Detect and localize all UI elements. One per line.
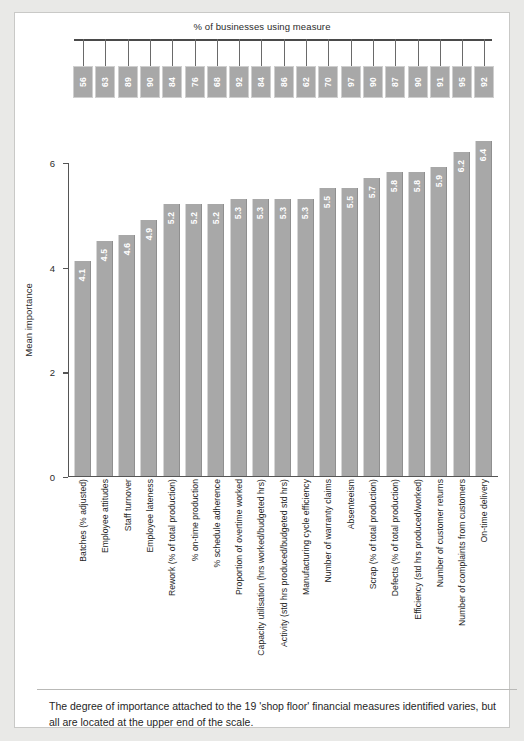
category-label: % schedule adherence [206,479,228,679]
pct-axis-title: % of businesses using measure [15,21,509,32]
bar: 5.3 [252,199,269,476]
bar-value-label: 4.5 [99,248,109,260]
pct-value-box: 62 [296,66,316,98]
bar: 4.6 [118,235,135,476]
bar: 5.2 [185,204,202,476]
pct-value-text: 87 [390,77,400,87]
category-label: Manufacturing cycle efficiency [295,479,317,679]
pct-stem [373,39,374,67]
pct-stem [150,39,151,67]
category-label-text: Rework (% of total production) [167,479,177,596]
pct-stem [484,39,485,67]
bar: 5.7 [363,178,380,476]
y-axis-tick: 2 [63,372,68,373]
bar-value-label: 5.9 [434,175,444,187]
pct-value-text: 68 [212,77,222,87]
category-label: Number of warranty claims [317,479,339,679]
bar: 4.5 [96,241,113,477]
pct-stem [83,39,84,67]
bar: 5.3 [274,199,291,476]
category-label-text: Capacity utilisation (hrs worked/budgete… [256,479,266,656]
y-axis-tick: 0 [63,477,68,478]
y-axis-label: Mean importance [23,283,34,356]
bar-value-label: 4.9 [144,227,154,239]
category-label-text: Absenteeism [346,479,356,529]
bar-value-label: 5.3 [278,206,288,218]
pct-value-text: 86 [279,77,289,87]
pct-stem [172,39,173,67]
pct-value-text: 97 [346,77,356,87]
pct-value-box: 84 [162,66,182,98]
bar: 4.9 [140,220,157,476]
bar-value-label: 5.2 [189,212,199,224]
bar-value-label: 5.5 [345,196,355,208]
pct-stem [217,39,218,67]
category-label-text: On-time delivery [479,479,489,542]
category-label: Efficiency (std hrs produced/worked) [407,479,429,679]
pct-marker: 70 [317,39,339,109]
pct-value-box: 90 [363,66,383,98]
category-label: Defects (% of total production) [384,479,406,679]
y-axis-tick-label: 2 [50,367,55,378]
bar-value-label: 5.8 [389,180,399,192]
pct-strip: 56638990847668928486627097908790919592 [68,39,498,109]
pct-stem [328,39,329,67]
category-labels: Batches (% adjusted)Employee attitudesSt… [68,479,498,679]
bar: 5.5 [319,188,336,476]
pct-value-text: 95 [457,77,467,87]
pct-value-box: 90 [408,66,428,98]
category-label-text: Number of warranty claims [323,479,333,582]
category-label-text: % on-time production [190,479,200,561]
pct-value-box: 90 [140,66,160,98]
pct-value-box: 89 [118,66,138,98]
pct-marker: 92 [473,39,495,109]
bar: 4.1 [74,261,91,476]
pct-value-box: 76 [185,66,205,98]
bar-value-label: 6.2 [456,159,466,171]
category-label-text: % schedule adherence [212,479,222,567]
pct-stem [105,39,106,67]
category-label-text: Employee attitudes [100,479,110,553]
pct-value-text: 89 [123,77,133,87]
bar: 5.8 [386,172,403,476]
pct-value-text: 62 [301,77,311,87]
pct-value-box: 56 [73,66,93,98]
pct-value-box: 86 [274,66,294,98]
bar: 5.2 [163,204,180,476]
pct-value-text: 70 [323,77,333,87]
pct-marker: 90 [362,39,384,109]
pct-value-text: 63 [100,77,110,87]
pct-value-box: 84 [251,66,271,98]
pct-value-box: 87 [385,66,405,98]
pct-stem [195,39,196,67]
category-label: Activity (std hrs produced/budgeted std … [273,479,295,679]
category-label: Capacity utilisation (hrs worked/budgete… [250,479,272,679]
pct-value-text: 91 [435,77,445,87]
pct-stem [306,39,307,67]
y-axis-tick: 6 [63,163,68,164]
category-label: Staff turnover [117,479,139,679]
pct-value-text: 84 [167,77,177,87]
pct-marker: 92 [228,39,250,109]
category-label-text: Activity (std hrs produced/budgeted std … [279,479,289,647]
category-label-text: Efficiency (std hrs produced/worked) [413,479,423,620]
pct-value-box: 97 [341,66,361,98]
pct-marker: 56 [72,39,94,109]
pct-value-box: 68 [207,66,227,98]
pct-stem [418,39,419,67]
bar: 6.2 [453,152,470,476]
pct-value-text: 90 [413,77,423,87]
bar-value-label: 5.5 [322,196,332,208]
pct-stem [284,39,285,67]
bar: 5.3 [297,199,314,476]
bar-value-label: 5.8 [412,180,422,192]
pct-value-box: 92 [229,66,249,98]
pct-marker: 86 [273,39,295,109]
category-label: Batches (% adjusted) [72,479,94,679]
pct-stem [395,39,396,67]
bar-value-label: 5.2 [166,212,176,224]
y-axis-tick-label: 4 [50,262,55,273]
bar-value-label: 5.3 [300,206,310,218]
bar-value-label: 4.6 [122,243,132,255]
bar-value-label: 5.3 [233,206,243,218]
